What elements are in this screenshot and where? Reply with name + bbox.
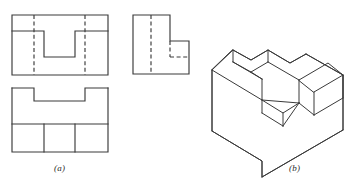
isometric-view-group bbox=[212, 50, 343, 177]
side-view-group bbox=[133, 15, 190, 74]
iso-step-to-right-face bbox=[314, 98, 343, 115]
caption-a: (a) bbox=[54, 163, 65, 173]
top-view-outline bbox=[12, 15, 108, 75]
iso-slot-floor-front bbox=[251, 72, 262, 79]
iso-notch-lower-left bbox=[262, 113, 283, 126]
caption-b: (b) bbox=[289, 163, 300, 173]
side-view-outline bbox=[133, 15, 189, 74]
front-view-outline bbox=[12, 88, 108, 152]
top-view-slot-profile bbox=[12, 31, 108, 57]
iso-front-bottom-edge bbox=[212, 131, 262, 177]
engineering-drawing-canvas bbox=[0, 0, 356, 187]
top-view-group bbox=[12, 15, 108, 75]
iso-step-top-face bbox=[299, 63, 343, 92]
iso-slot-mid-riser bbox=[251, 62, 268, 72]
front-view-group bbox=[12, 88, 108, 152]
iso-base-front-right bbox=[262, 130, 343, 177]
iso-inner-floor-left bbox=[262, 100, 299, 103]
iso-slot-floor-right bbox=[268, 62, 299, 80]
iso-step-front-lower-edge bbox=[299, 103, 314, 115]
iso-front-ledge-right bbox=[283, 103, 299, 126]
iso-outer-silhouette bbox=[212, 50, 343, 177]
figure-container: (a) (b) bbox=[0, 0, 356, 187]
front-view-top-profile bbox=[12, 88, 108, 101]
